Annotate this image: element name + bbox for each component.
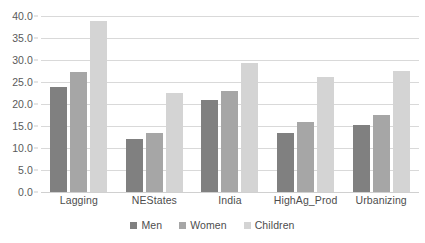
bar-group bbox=[41, 16, 117, 192]
bar-men-urbanizing[interactable] bbox=[353, 125, 370, 192]
bar-group bbox=[268, 16, 344, 192]
bar-group bbox=[117, 16, 193, 192]
gridline bbox=[41, 192, 419, 193]
bar-slot bbox=[393, 16, 410, 192]
bar-slot bbox=[317, 16, 334, 192]
legend-swatch-icon bbox=[179, 222, 186, 229]
x-axis-tick-label: India bbox=[192, 194, 268, 212]
bar-children-highag_prod[interactable] bbox=[317, 77, 334, 192]
y-axis-tick-mark bbox=[34, 170, 38, 171]
y-axis-tick-mark bbox=[34, 192, 38, 193]
bar-women-urbanizing[interactable] bbox=[373, 115, 390, 192]
legend-item-women[interactable]: Women bbox=[179, 219, 227, 231]
bar-slot bbox=[70, 16, 87, 192]
y-axis-tick-mark bbox=[34, 82, 38, 83]
bar-slot bbox=[297, 16, 314, 192]
legend-swatch-icon bbox=[130, 222, 137, 229]
x-axis-tick-label: NEStates bbox=[117, 194, 193, 212]
x-axis-tick-label: HighAg_Prod bbox=[268, 194, 344, 212]
bar-slot bbox=[126, 16, 143, 192]
bar-children-india[interactable] bbox=[241, 63, 258, 192]
bar-slot bbox=[146, 16, 163, 192]
y-axis-tick-label: 30.0 bbox=[12, 54, 33, 66]
bar-slot bbox=[373, 16, 390, 192]
bar-women-nestates[interactable] bbox=[146, 133, 163, 192]
bar-slot bbox=[277, 16, 294, 192]
bar-group bbox=[192, 16, 268, 192]
y-axis-tick-label: 25.0 bbox=[12, 76, 33, 88]
y-axis-tick-label: 20.0 bbox=[12, 98, 33, 110]
bar-men-india[interactable] bbox=[201, 100, 218, 192]
y-axis: 0.05.010.015.020.025.030.035.040.0 bbox=[0, 0, 38, 192]
x-axis-labels: LaggingNEStatesIndiaHighAg_ProdUrbanizin… bbox=[41, 194, 419, 212]
legend-label: Men bbox=[141, 219, 162, 231]
legend-swatch-icon bbox=[244, 222, 251, 229]
bar-group bbox=[343, 16, 419, 192]
bar-women-highag_prod[interactable] bbox=[297, 122, 314, 192]
bar-women-india[interactable] bbox=[221, 91, 238, 192]
legend-label: Children bbox=[255, 219, 295, 231]
bar-men-nestates[interactable] bbox=[126, 139, 143, 192]
bar-men-lagging[interactable] bbox=[50, 87, 67, 192]
y-axis-tick-mark bbox=[34, 148, 38, 149]
bar-women-lagging[interactable] bbox=[70, 72, 87, 192]
bar-groups bbox=[41, 16, 419, 192]
bar-men-highag_prod[interactable] bbox=[277, 133, 294, 192]
bar-children-nestates[interactable] bbox=[166, 93, 183, 192]
y-axis-tick-label: 10.0 bbox=[12, 142, 33, 154]
y-axis-tick-mark bbox=[34, 104, 38, 105]
x-axis-tick-label: Lagging bbox=[41, 194, 117, 212]
bar-chart: 0.05.010.015.020.025.030.035.040.0 Laggi… bbox=[0, 0, 425, 243]
chart-legend: MenWomenChildren bbox=[0, 216, 425, 234]
y-axis-tick-mark bbox=[34, 16, 38, 17]
legend-item-men[interactable]: Men bbox=[130, 219, 162, 231]
legend-item-children[interactable]: Children bbox=[244, 219, 295, 231]
bar-slot bbox=[50, 16, 67, 192]
bar-slot bbox=[221, 16, 238, 192]
y-axis-tick-label: 0.0 bbox=[18, 186, 33, 198]
y-axis-tick-label: 40.0 bbox=[12, 10, 33, 22]
plot-area bbox=[41, 16, 419, 192]
y-axis-tick-label: 5.0 bbox=[18, 164, 33, 176]
bar-slot bbox=[166, 16, 183, 192]
bar-slot bbox=[90, 16, 107, 192]
bar-slot bbox=[241, 16, 258, 192]
bar-slot bbox=[201, 16, 218, 192]
bar-slot bbox=[353, 16, 370, 192]
y-axis-tick-mark bbox=[34, 60, 38, 61]
x-axis-tick-label: Urbanizing bbox=[343, 194, 419, 212]
bar-children-urbanizing[interactable] bbox=[393, 71, 410, 192]
y-axis-tick-mark bbox=[34, 38, 38, 39]
bar-children-lagging[interactable] bbox=[90, 21, 107, 192]
legend-label: Women bbox=[190, 219, 227, 231]
y-axis-tick-label: 15.0 bbox=[12, 120, 33, 132]
y-axis-tick-label: 35.0 bbox=[12, 32, 33, 44]
y-axis-tick-mark bbox=[34, 126, 38, 127]
